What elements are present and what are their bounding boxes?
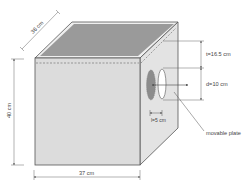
diagram-canvas: 36 cm 40 cm 37 cm t=16.5 cm d=10 cm bbox=[0, 0, 249, 187]
plate-label: movable plate bbox=[206, 130, 241, 136]
hole-opening bbox=[158, 69, 166, 99]
diameter-label: d=10 cm bbox=[206, 81, 228, 87]
plate-gap-label: l=5 cm bbox=[151, 117, 166, 123]
box-diagram: 36 cm 40 cm 37 cm t=16.5 cm d=10 cm bbox=[0, 0, 249, 187]
width-label: 37 cm bbox=[79, 170, 95, 176]
height-dimension: 40 cm bbox=[6, 59, 24, 165]
width-dimension: 37 cm bbox=[34, 170, 140, 180]
plate-callout: movable plate bbox=[174, 92, 241, 136]
height-label: 40 cm bbox=[6, 102, 12, 118]
depth-label: 36 cm bbox=[29, 19, 44, 34]
front-face bbox=[35, 58, 140, 165]
top-offset-label: t=16.5 cm bbox=[206, 51, 231, 57]
